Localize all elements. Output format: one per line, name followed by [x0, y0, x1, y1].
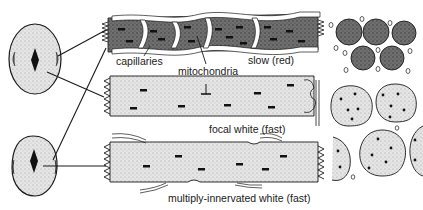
- label-capillaries: capillaries: [116, 56, 163, 67]
- upper-muscle-cross-section: [9, 24, 61, 94]
- multiply-innervated-white-fibre: [104, 134, 324, 194]
- slow-fibre-cross-sections: [329, 17, 416, 74]
- focal-white-fibre: [104, 76, 319, 126]
- label-focal-white: focal white (fast): [209, 124, 285, 135]
- label-mitochondria: mitochondria: [178, 66, 238, 77]
- diagram-canvas: [0, 0, 423, 210]
- label-slow-red: slow (red): [248, 55, 294, 66]
- fast-fibre-cross-sections: [331, 84, 423, 180]
- label-multiply-innervated-white: multiply-innervated white (fast): [168, 193, 310, 204]
- muscle-fibre-diagram: capillaries mitochondria slow (red) foca…: [0, 0, 423, 210]
